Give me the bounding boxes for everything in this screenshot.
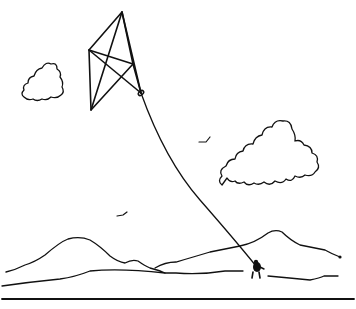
ground-line-back xyxy=(2,270,243,286)
kite-scene xyxy=(0,0,356,309)
bird-icon xyxy=(199,137,210,142)
kite-string xyxy=(141,93,256,266)
cloud-small-icon xyxy=(22,63,63,100)
mountain-right xyxy=(155,231,340,268)
mountain-left xyxy=(6,238,165,273)
cloud-large-icon xyxy=(220,121,319,185)
ground-line-mid xyxy=(268,276,338,280)
bird-icon xyxy=(117,212,127,216)
kite-icon xyxy=(89,12,145,110)
